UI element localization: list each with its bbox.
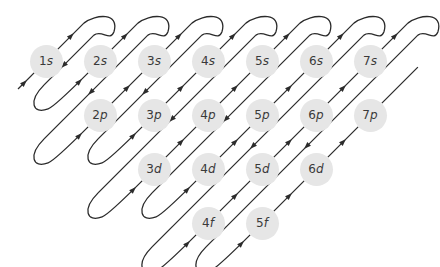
orbital-5p: 5p: [246, 99, 279, 132]
orbital-5d: 5d: [246, 153, 279, 186]
orbital-5f: 5f: [246, 207, 279, 240]
orbital-4s: 4s: [192, 45, 225, 78]
orbital-2s: 2s: [84, 45, 117, 78]
orbital-4d: 4d: [192, 153, 225, 186]
orbital-3s: 3s: [138, 45, 171, 78]
orbital-7p: 7p: [354, 99, 387, 132]
orbital-6d: 6d: [300, 153, 333, 186]
orbital-7s: 7s: [354, 45, 387, 78]
orbital-3p: 3p: [138, 99, 171, 132]
orbital-1s: 1s: [30, 45, 63, 78]
orbital-4f: 4f: [192, 207, 225, 240]
orbital-2p: 2p: [84, 99, 117, 132]
orbital-6p: 6p: [300, 99, 333, 132]
orbital-4p: 4p: [192, 99, 225, 132]
orbital-6s: 6s: [300, 45, 333, 78]
orbital-3d: 3d: [138, 153, 171, 186]
orbital-5s: 5s: [246, 45, 279, 78]
